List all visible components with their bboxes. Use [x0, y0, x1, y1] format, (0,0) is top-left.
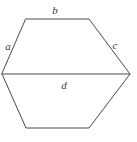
side-label-b: b — [52, 5, 58, 16]
hexagon-drawing — [0, 0, 137, 142]
side-label-a: a — [5, 41, 11, 52]
side-label-d: d — [61, 80, 67, 91]
hexagon-figure: a b c d — [0, 0, 137, 142]
side-label-c: c — [113, 40, 118, 51]
